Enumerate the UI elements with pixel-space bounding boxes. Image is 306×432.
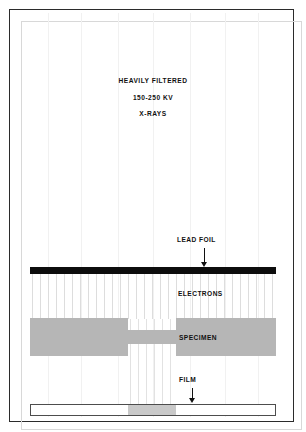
electron-streak xyxy=(120,274,121,319)
electron-streak xyxy=(96,274,97,319)
lead-foil-layer xyxy=(30,267,276,274)
film-exposed-region xyxy=(128,404,176,416)
electron-streak xyxy=(272,274,273,319)
electron-streak xyxy=(160,274,161,319)
electron-streaks xyxy=(30,274,276,319)
electron-streak xyxy=(168,274,169,319)
xray-beam-line-1 xyxy=(48,13,49,417)
xray-beam-line-3 xyxy=(118,13,119,417)
electron-streak xyxy=(176,274,177,319)
electron-streak xyxy=(240,274,241,319)
electron-streak xyxy=(64,274,65,319)
specimen-label: SPECIMEN xyxy=(179,335,217,342)
electron-streak xyxy=(152,274,153,319)
electron-streak xyxy=(80,274,81,319)
electron-streak xyxy=(72,274,73,319)
electron-streak xyxy=(112,274,113,319)
xray-beam-line-2 xyxy=(81,13,82,417)
electrons-label: ELECTRONS xyxy=(178,291,223,298)
lead-foil-label: LEAD FOIL xyxy=(177,237,216,244)
beam-caption-line-2: 150-250 KV xyxy=(0,95,306,102)
electron-streak xyxy=(224,274,225,319)
beam-caption-line-3: X-RAYS xyxy=(0,111,306,118)
electron-streak xyxy=(88,274,89,319)
xray-beam-line-7 xyxy=(258,13,259,417)
electron-streak xyxy=(40,274,41,319)
electron-streak xyxy=(136,274,137,319)
lead-foil-arrow-icon xyxy=(204,248,205,262)
specimen-left-block xyxy=(30,318,128,356)
specimen-thin-section xyxy=(128,330,176,344)
electron-streak xyxy=(144,274,145,319)
electron-streak xyxy=(128,274,129,319)
electron-streak xyxy=(256,274,257,319)
electron-streak xyxy=(104,274,105,319)
beam-source-caption: HEAVILY FILTERED 150-250 KV X-RAYS xyxy=(0,78,306,128)
xray-beam-line-5 xyxy=(190,13,191,417)
electron-streak xyxy=(232,274,233,319)
electron-streak xyxy=(264,274,265,319)
film-arrow-icon xyxy=(192,388,193,398)
electron-streak xyxy=(48,274,49,319)
beam-caption-line-1: HEAVILY FILTERED xyxy=(0,78,306,85)
electron-streak xyxy=(56,274,57,319)
radiography-diagram: HEAVILY FILTERED 150-250 KV X-RAYS LEAD … xyxy=(0,0,306,432)
electron-streak xyxy=(32,274,33,319)
electron-streak xyxy=(248,274,249,319)
xray-beam-line-6 xyxy=(225,13,226,417)
film-label: FILM xyxy=(179,377,196,384)
